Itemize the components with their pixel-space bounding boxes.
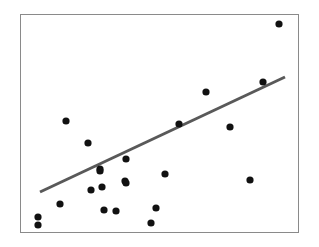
- data-point: [62, 117, 69, 124]
- data-point: [161, 170, 168, 177]
- data-point: [275, 20, 282, 27]
- data-point: [246, 176, 253, 183]
- data-point: [87, 186, 94, 193]
- data-point: [175, 120, 182, 127]
- data-point: [34, 213, 41, 220]
- data-point: [98, 183, 105, 190]
- data-point: [56, 200, 63, 207]
- data-point: [259, 78, 266, 85]
- data-point: [34, 221, 41, 228]
- data-point: [147, 219, 154, 226]
- scatter-plot-figure: [0, 0, 319, 247]
- plot-canvas: [0, 0, 319, 247]
- data-point: [122, 179, 129, 186]
- data-point: [96, 167, 103, 174]
- data-point: [152, 204, 159, 211]
- data-points-group: [34, 20, 282, 228]
- data-point: [84, 139, 91, 146]
- data-point: [202, 88, 209, 95]
- data-point: [112, 207, 119, 214]
- data-point: [100, 206, 107, 213]
- data-point: [226, 123, 233, 130]
- data-point: [122, 155, 129, 162]
